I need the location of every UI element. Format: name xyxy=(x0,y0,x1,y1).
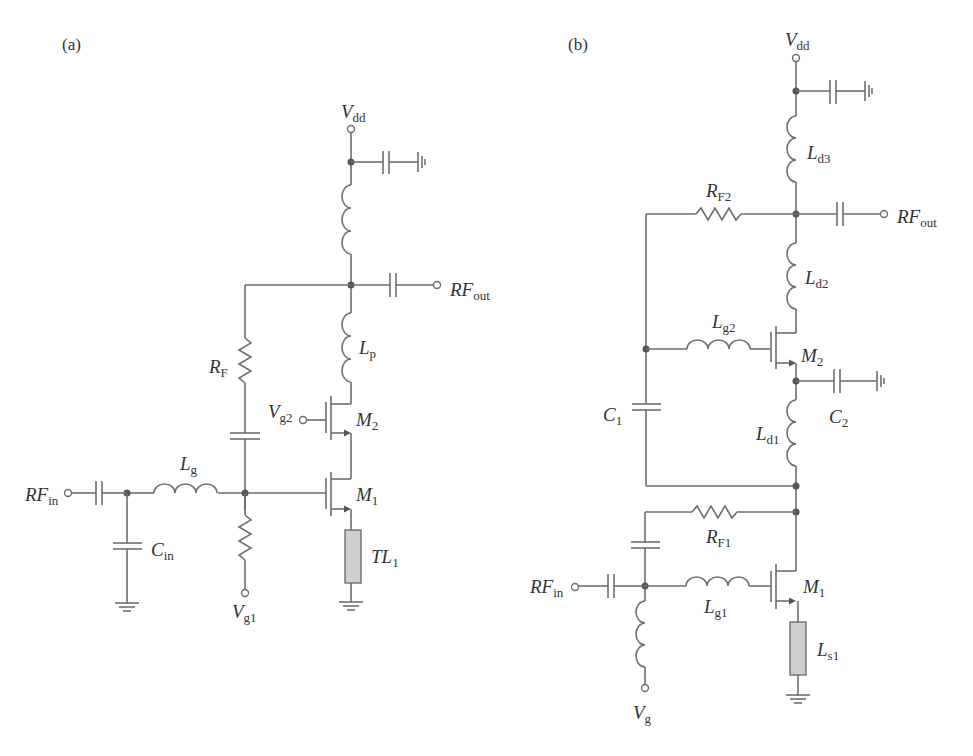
label-vdd-a: Vdd xyxy=(341,101,366,125)
tl1-transmission-line xyxy=(345,530,361,583)
panel-b: (b) xyxy=(529,29,937,726)
vdd-terminal-b xyxy=(793,55,800,62)
rf-in-terminal-b xyxy=(572,584,579,591)
ls1-transmission-line xyxy=(790,622,806,675)
choke-inductor-a xyxy=(342,185,351,254)
vg2-terminal xyxy=(300,417,307,424)
label-rf: RF xyxy=(208,356,228,380)
ground-icon xyxy=(339,602,363,610)
bypass-capacitor-a xyxy=(351,151,425,174)
ld2-inductor xyxy=(787,243,796,309)
lg-inductor xyxy=(154,484,217,493)
label-c1: C1 xyxy=(603,404,622,428)
label-rf-out-b: RFout xyxy=(896,206,937,230)
label-m1-a: M1 xyxy=(355,484,378,508)
vg1-terminal xyxy=(242,590,249,597)
label-vdd-b: Vdd xyxy=(785,29,810,53)
label-c2: C2 xyxy=(829,406,848,430)
lg1-inductor xyxy=(686,577,749,586)
ld3-inductor xyxy=(787,116,796,182)
rf1-resistor xyxy=(692,506,737,518)
vg-terminal xyxy=(642,685,649,692)
label-ld2: Ld2 xyxy=(804,267,829,291)
label-m1-b: M1 xyxy=(802,576,825,600)
label-rf-in-b: RFin xyxy=(529,576,564,600)
label-ld1: Ld1 xyxy=(755,423,780,447)
circuit-diagram: (a) xyxy=(0,0,973,756)
rf-out-terminal-a xyxy=(434,282,441,289)
vg-choke-inductor xyxy=(636,601,645,667)
panel-b-label: (b) xyxy=(568,35,588,54)
rf-in-terminal-a xyxy=(65,490,72,497)
label-rf1: RF1 xyxy=(705,526,731,550)
m1-transistor-a xyxy=(326,472,351,530)
rf2-resistor xyxy=(696,208,741,220)
m1-transistor-b xyxy=(771,564,798,622)
feedback-resistor-a xyxy=(239,338,251,383)
output-capacitor-a xyxy=(351,273,433,297)
c2-capacitor xyxy=(796,369,884,393)
label-vg: Vg xyxy=(633,702,652,726)
ld1-inductor xyxy=(787,400,796,466)
label-lg: Lg xyxy=(179,453,198,477)
rf-out-terminal-b xyxy=(881,211,888,218)
label-ls1: Ls1 xyxy=(816,639,839,663)
label-cin: Cin xyxy=(151,539,174,563)
label-lp: Lp xyxy=(358,337,376,361)
label-rf-in-a: RFin xyxy=(24,484,59,508)
ground-icon xyxy=(786,695,810,703)
vdd-terminal-a xyxy=(348,126,355,133)
label-m2-b: M2 xyxy=(800,345,823,369)
label-tl1: TL1 xyxy=(371,546,399,570)
lg2-inductor xyxy=(687,340,750,349)
ground-icon xyxy=(115,603,139,611)
bias-resistor-a xyxy=(239,515,251,560)
panel-a-label: (a) xyxy=(62,35,81,54)
label-lg1: Lg1 xyxy=(703,596,728,620)
label-vg1: Vg1 xyxy=(232,601,257,625)
panel-a: (a) xyxy=(24,35,490,625)
lp-inductor xyxy=(342,313,351,382)
label-rf2: RF2 xyxy=(705,180,731,204)
label-ld3: Ld3 xyxy=(806,142,831,166)
label-rf-out-a: RFout xyxy=(449,279,490,303)
label-vg2: Vg2 xyxy=(268,401,293,425)
bypass-capacitor-b xyxy=(796,80,872,104)
label-m2-a: M2 xyxy=(355,409,378,433)
label-lg2: Lg2 xyxy=(711,311,736,335)
m2-transistor-b xyxy=(771,326,796,400)
m2-transistor-a xyxy=(307,396,351,479)
